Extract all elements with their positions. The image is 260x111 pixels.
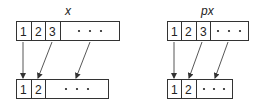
- mapping-arrows-x: [23, 42, 90, 78]
- diagram-canvas: x 1 2 3 1 2: [0, 0, 260, 111]
- source-array-px: 1 2 3: [168, 22, 249, 41]
- target-array-px: 1 2: [168, 80, 233, 99]
- source-cell-1: 1: [171, 25, 178, 39]
- arrow-icon: [76, 42, 90, 78]
- target-array-x: 1 2: [17, 80, 109, 99]
- source-cell-3: 3: [200, 25, 207, 39]
- target-cell-2: 2: [185, 83, 192, 97]
- diagram-x: x 1 2 3 1 2: [17, 4, 120, 99]
- mapping-arrows-px: [174, 42, 228, 78]
- source-cell-2: 2: [35, 25, 42, 39]
- source-cell-3: 3: [49, 25, 56, 39]
- target-cell-1: 1: [171, 83, 178, 97]
- label-px: px: [200, 4, 215, 18]
- arrow-icon: [215, 42, 228, 78]
- arrow-icon: [38, 42, 52, 78]
- target-cell-1: 1: [20, 83, 27, 97]
- source-array-x: 1 2 3: [17, 22, 120, 41]
- arrow-icon: [189, 42, 202, 78]
- label-x: x: [64, 4, 72, 18]
- diagram-px: px 1 2 3 1 2: [168, 4, 249, 99]
- source-cell-2: 2: [185, 25, 192, 39]
- source-cell-1: 1: [20, 25, 27, 39]
- target-cell-2: 2: [35, 83, 42, 97]
